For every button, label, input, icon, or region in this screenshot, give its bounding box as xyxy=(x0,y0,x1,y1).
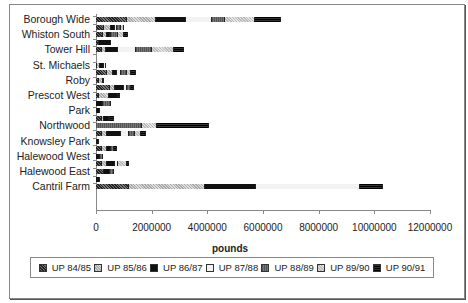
category-label: Whiston South xyxy=(22,28,90,40)
bar-segment xyxy=(107,131,121,136)
bar-row xyxy=(96,139,99,144)
bar-segment xyxy=(96,70,107,75)
legend-swatch-icon xyxy=(317,264,325,272)
bar-segment xyxy=(110,116,114,121)
bar-segment xyxy=(142,123,157,128)
bar-row xyxy=(96,161,129,166)
legend: UP 84/85UP 85/86UP 86/87UP 87/88UP 88/89… xyxy=(30,257,434,278)
bar-segment xyxy=(100,154,103,159)
x-tick xyxy=(319,210,320,214)
legend-item: UP 86/87 xyxy=(150,262,202,273)
bar-row xyxy=(96,25,124,30)
bar-segment xyxy=(96,101,103,106)
category-label: Borough Wide xyxy=(23,13,90,25)
legend-swatch-icon xyxy=(94,264,102,272)
legend-item: UP 84/85 xyxy=(39,262,91,273)
x-tick-label: 0 xyxy=(93,222,99,233)
legend-label: UP 86/87 xyxy=(163,262,202,273)
bar-row xyxy=(96,40,111,45)
bar-segment xyxy=(256,184,360,189)
bar-row xyxy=(96,123,209,128)
bar-segment xyxy=(118,161,126,166)
x-tick xyxy=(263,210,264,214)
category-label: Northwood xyxy=(39,119,90,131)
x-tick-label: 10000000 xyxy=(352,222,397,233)
legend-swatch-icon xyxy=(373,264,381,272)
bar-segment xyxy=(110,169,114,174)
bar-segment xyxy=(131,70,137,75)
bar-row xyxy=(96,108,100,113)
category-label: Knowsley Park xyxy=(21,135,90,147)
legend-label: UP 87/88 xyxy=(219,262,258,273)
bar-row xyxy=(96,146,117,151)
bar-segment xyxy=(96,25,104,30)
bar-segment xyxy=(121,25,124,30)
bar-segment xyxy=(115,85,123,90)
bar-segment xyxy=(96,32,103,37)
bar-segment xyxy=(118,47,136,52)
bar-segment xyxy=(127,161,130,166)
bar-row xyxy=(96,78,104,83)
bar-segment xyxy=(205,184,256,189)
x-axis-title: pounds xyxy=(212,243,248,254)
category-label: St. Michaels xyxy=(33,59,90,71)
category-label: Roby xyxy=(65,74,90,86)
bar-row xyxy=(96,85,134,90)
legend-swatch-icon xyxy=(261,264,269,272)
bar-segment xyxy=(97,108,100,113)
category-label: Halewood West xyxy=(17,150,90,162)
y-tick xyxy=(93,54,96,55)
legend-item: UP 87/88 xyxy=(206,262,258,273)
bar-segment xyxy=(174,47,184,52)
bar-segment xyxy=(107,161,115,166)
bar-row xyxy=(96,169,114,174)
legend-item: UP 89/90 xyxy=(317,262,369,273)
bar-segment xyxy=(121,131,129,136)
bar-row xyxy=(96,116,114,121)
legend-swatch-icon xyxy=(39,264,47,272)
bar-segment xyxy=(99,93,109,98)
bar-row xyxy=(96,32,128,37)
bar-segment xyxy=(156,17,186,22)
bar-segment xyxy=(129,184,204,189)
category-label: Prescot West xyxy=(28,89,90,101)
legend-label: UP 90/91 xyxy=(386,262,425,273)
legend-item: UP 88/89 xyxy=(261,262,313,273)
bar-row xyxy=(96,63,106,68)
x-tick-label: 6000000 xyxy=(244,222,283,233)
bar-segment xyxy=(97,139,98,144)
bar-segment xyxy=(103,101,111,106)
bar-segment xyxy=(152,47,174,52)
bar-segment xyxy=(141,131,147,136)
category-label: Tower Hill xyxy=(44,43,90,55)
bar-segment xyxy=(225,17,256,22)
bar-segment xyxy=(96,169,104,174)
x-tick-label: 12000000 xyxy=(408,222,453,233)
x-tick xyxy=(374,210,375,214)
legend-swatch-icon xyxy=(150,264,158,272)
legend-label: UP 89/90 xyxy=(330,262,369,273)
bar-segment xyxy=(104,25,111,30)
legend-label: UP 88/89 xyxy=(274,262,313,273)
bar-row xyxy=(96,154,103,159)
bar-row xyxy=(96,177,100,182)
bar-segment xyxy=(109,93,119,98)
legend-swatch-icon xyxy=(206,264,214,272)
category-label: Cantril Farm xyxy=(32,180,90,192)
bar-row xyxy=(96,93,120,98)
category-label: Park xyxy=(68,104,90,116)
bar-segment xyxy=(186,17,212,22)
legend-item: UP 85/86 xyxy=(94,262,146,273)
x-tick xyxy=(207,210,208,214)
bar-row xyxy=(96,184,383,189)
bar-segment xyxy=(157,123,208,128)
legend-item: UP 90/91 xyxy=(373,262,425,273)
bar-segment xyxy=(96,177,100,182)
bar-segment xyxy=(96,17,127,22)
bar-segment xyxy=(118,93,119,98)
x-tick-label: 8000000 xyxy=(299,222,338,233)
x-tick-label: 2000000 xyxy=(132,222,171,233)
bar-segment xyxy=(131,85,134,90)
bar-row xyxy=(96,17,281,22)
bar-segment xyxy=(360,184,382,189)
